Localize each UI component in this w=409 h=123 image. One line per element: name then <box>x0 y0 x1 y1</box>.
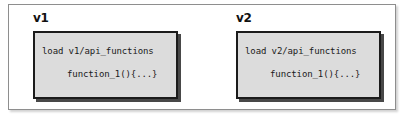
code-line-function-v1: function_1(){...} <box>67 69 157 80</box>
outer-container-frame: v1 load v1/api_functions function_1(){..… <box>8 4 396 110</box>
code-box-v2: load v2/api_functions function_1(){...} <box>236 31 381 99</box>
version-label-v2: v2 <box>236 12 252 25</box>
code-line-function-v2: function_1(){...} <box>270 69 360 80</box>
code-line-load-v1: load v1/api_functions <box>42 46 154 57</box>
diagram-canvas: v1 load v1/api_functions function_1(){..… <box>0 0 409 123</box>
code-box-v1: load v1/api_functions function_1(){...} <box>33 31 178 99</box>
version-group-v1: v1 load v1/api_functions function_1(){..… <box>21 5 191 109</box>
version-label-v1: v1 <box>33 12 49 25</box>
code-line-load-v2: load v2/api_functions <box>245 46 357 57</box>
version-group-v2: v2 load v2/api_functions function_1(){..… <box>224 5 394 109</box>
